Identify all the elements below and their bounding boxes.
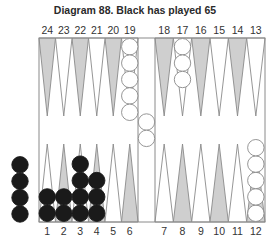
black-checker-off[interactable] [12, 157, 28, 173]
point-label-10: 10 [213, 225, 225, 237]
point-23 [56, 38, 73, 116]
point-label-11: 11 [232, 225, 243, 237]
black-checker-off[interactable] [12, 206, 28, 222]
white-checker-point-12[interactable] [248, 156, 264, 172]
white-checker-point-17[interactable] [174, 71, 190, 87]
point-label-19: 19 [124, 24, 136, 36]
point-label-17: 17 [177, 24, 189, 36]
point-9 [192, 144, 210, 222]
point-label-22: 22 [74, 24, 86, 36]
point-label-24: 24 [41, 24, 53, 36]
point-label-7: 7 [161, 225, 167, 237]
white-checker-point-19[interactable] [122, 55, 138, 71]
backgammon-board: 242322212019181716151413123456789101112 [0, 0, 270, 251]
point-label-4: 4 [94, 225, 100, 237]
black-checker-point-2[interactable] [56, 189, 72, 205]
white-checker-bar[interactable] [138, 130, 154, 146]
point-24 [39, 38, 56, 116]
black-checker-point-2[interactable] [56, 205, 72, 221]
black-checker-off[interactable] [12, 173, 28, 189]
point-21 [89, 38, 106, 116]
point-label-20: 20 [107, 24, 119, 36]
point-20 [105, 38, 122, 116]
point-label-6: 6 [127, 225, 133, 237]
black-checker-point-4[interactable] [89, 205, 105, 221]
black-checker-point-3[interactable] [72, 156, 88, 172]
white-checker-point-19[interactable] [122, 104, 138, 120]
white-checker-point-19[interactable] [122, 88, 138, 104]
point-label-21: 21 [91, 24, 103, 36]
point-label-5: 5 [110, 225, 116, 237]
point-18 [155, 38, 173, 116]
point-22 [72, 38, 89, 116]
point-label-15: 15 [213, 24, 225, 36]
black-checker-point-4[interactable] [89, 172, 105, 188]
point-7 [155, 144, 173, 222]
point-label-8: 8 [180, 225, 186, 237]
white-checker-bar[interactable] [138, 114, 154, 130]
black-checker-off[interactable] [12, 189, 28, 205]
black-checker-point-3[interactable] [72, 205, 88, 221]
point-11 [228, 144, 246, 222]
black-checker-point-3[interactable] [72, 172, 88, 188]
point-label-23: 23 [58, 24, 70, 36]
point-label-3: 3 [77, 225, 83, 237]
point-15 [210, 38, 228, 116]
white-checker-point-19[interactable] [122, 39, 138, 55]
white-checker-point-12[interactable] [248, 189, 264, 205]
point-14 [228, 38, 246, 116]
white-checker-point-12[interactable] [248, 140, 264, 156]
point-label-16: 16 [195, 24, 207, 36]
white-checker-point-19[interactable] [122, 71, 138, 87]
point-label-14: 14 [232, 24, 244, 36]
white-checker-point-12[interactable] [248, 205, 264, 221]
point-5 [105, 144, 122, 222]
black-checker-point-1[interactable] [39, 205, 55, 221]
black-checker-point-4[interactable] [89, 189, 105, 205]
white-checker-point-17[interactable] [174, 39, 190, 55]
black-checker-point-3[interactable] [72, 189, 88, 205]
point-label-12: 12 [250, 225, 262, 237]
point-10 [210, 144, 228, 222]
point-8 [173, 144, 191, 222]
point-label-13: 13 [250, 24, 262, 36]
point-16 [192, 38, 210, 116]
point-6 [122, 144, 139, 222]
point-label-18: 18 [158, 24, 170, 36]
white-checker-point-12[interactable] [248, 172, 264, 188]
white-checker-point-17[interactable] [174, 55, 190, 71]
black-checker-point-1[interactable] [39, 189, 55, 205]
point-label-9: 9 [198, 225, 204, 237]
point-label-1: 1 [44, 225, 50, 237]
point-13 [247, 38, 265, 116]
point-label-2: 2 [61, 225, 67, 237]
